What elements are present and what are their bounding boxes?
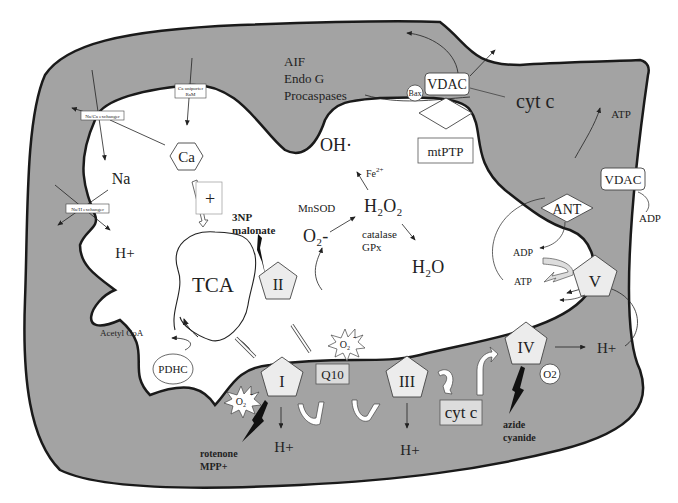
cyanide-label: cyanide [503, 432, 536, 443]
adp-matrix-label: ADP [513, 247, 533, 258]
procaspases-label: Procaspases [284, 88, 347, 103]
q10-label: Q10 [321, 367, 343, 382]
aif-label: AIF [284, 54, 305, 69]
endo-g-label: Endo G [284, 71, 324, 86]
pdhc-label: PDHC [158, 363, 187, 375]
o2-label: O2 [543, 368, 556, 380]
svg-text:-: - [353, 332, 356, 342]
na-h-exchanger-label: Na/H exchanger [71, 207, 104, 212]
atp-out-label: ATP [611, 108, 631, 120]
na-label: Na [112, 170, 131, 187]
svg-text:O₂: O₂ [236, 396, 247, 407]
svg-text:+: + [205, 189, 215, 209]
bax-label: Bax [409, 89, 422, 98]
h2o2-label: H₂O₂ [364, 196, 403, 216]
vdac-right-label: VDAC [605, 172, 642, 187]
cyt-c-label: cyt c [445, 403, 478, 422]
catalase-label: catalase [362, 228, 397, 240]
mitochondrion-diagram: Na/Ca exchanger Ca uniporter RaM Na/H ex… [0, 0, 678, 503]
inhibitor-malonate-label: malonate [232, 224, 276, 236]
na-ca-exchanger-label: Na/Ca exchanger [85, 114, 120, 119]
oh-radical-label: OH· [320, 135, 352, 155]
h-plus-complex-iii: H+ [400, 442, 419, 458]
complex-iii-label: III [399, 373, 415, 390]
h-plus-complex-i: H+ [274, 439, 293, 455]
mpp-label: MPP+ [200, 461, 228, 472]
superoxide-matrix-label: O₂- [303, 226, 328, 246]
svg-text:-: - [250, 389, 253, 399]
mnsod-label: MnSOD [298, 202, 335, 214]
atp-matrix-label: ATP [514, 276, 532, 287]
acetyl-coa-label: Acetyl CoA [100, 328, 144, 338]
ca-label: Ca [178, 149, 195, 165]
inhibitor-3np-label: 3NP [232, 211, 252, 223]
vdac-top-label: VDAC [427, 77, 467, 92]
h-plus-matrix-label: H+ [115, 245, 134, 261]
mtptp-label: mtPTP [427, 144, 463, 159]
svg-text:O₂: O₂ [340, 339, 351, 350]
ca-uniporter-label: Ca uniporter [178, 86, 203, 91]
azide-label: azide [503, 419, 526, 430]
complex-v-label: V [589, 272, 602, 291]
complex-iv-label: IV [518, 339, 535, 356]
gpx-label: GPx [362, 241, 382, 253]
tca-label: TCA [192, 273, 235, 297]
h2o-label: H₂O [412, 257, 444, 277]
adp-in-label: ADP [639, 212, 661, 224]
svg-text:RaM: RaM [186, 92, 197, 97]
h-plus-complex-iv: H+ [597, 340, 616, 356]
rotenone-label: rotenone [200, 448, 238, 459]
cyt-c-released-label: cyt c [516, 90, 554, 113]
complex-ii-label: II [273, 276, 284, 293]
ant-label: ANT [553, 202, 582, 217]
complex-i-label: I [279, 373, 284, 390]
